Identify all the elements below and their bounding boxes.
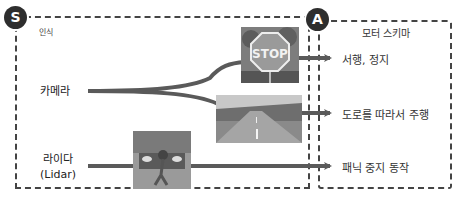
road-photo <box>216 95 302 143</box>
source-lidar: 라이다 (Lidar) <box>36 152 80 182</box>
source-lidar-korean: 라이다 <box>36 152 80 167</box>
source-camera: 카메라 <box>40 84 70 99</box>
pedestrian-icon <box>133 131 191 189</box>
source-lidar-english: (Lidar) <box>36 167 80 182</box>
output-panic-stop: 패닉 중지 동작 <box>342 159 409 175</box>
svg-text:STOP: STOP <box>252 47 288 61</box>
output-slow-stop: 서행, 정지 <box>342 51 389 67</box>
pedestrian-photo <box>133 131 191 189</box>
output-follow-road: 도로를 따라서 주행 <box>342 106 429 122</box>
stop-sign-photo: STOP <box>241 27 299 83</box>
road-icon <box>216 95 302 143</box>
stop-sign-icon: STOP <box>241 27 299 83</box>
